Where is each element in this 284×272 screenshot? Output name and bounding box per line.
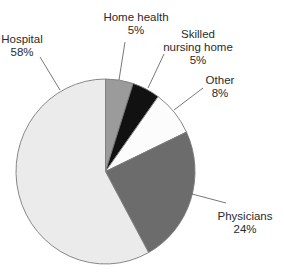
- pie-slices: [16, 79, 195, 264]
- label-hospital-name: Hospital: [1, 33, 43, 46]
- label-physicians-name: Physicians: [218, 210, 273, 223]
- label-home-health-name: Home health: [103, 11, 168, 24]
- label-physicians-value: 24%: [218, 223, 273, 236]
- label-home-health-value: 5%: [103, 24, 168, 37]
- label-skilled-nursing-value: 5%: [163, 54, 233, 67]
- label-hospital-value: 58%: [1, 46, 43, 59]
- label-physicians: Physicians 24%: [218, 210, 273, 236]
- leader-line-skilled-nursing: [148, 54, 164, 88]
- label-other-value: 8%: [206, 87, 235, 100]
- label-home-health: Home health 5%: [103, 11, 168, 37]
- label-skilled-nursing-line1: Skilled: [163, 28, 233, 41]
- leader-line-physicians: [192, 194, 226, 203]
- label-other: Other 8%: [206, 74, 235, 100]
- leader-line-hospital: [40, 57, 60, 90]
- leader-line-home-health: [119, 42, 125, 80]
- label-hospital: Hospital 58%: [1, 33, 43, 59]
- label-other-name: Other: [206, 74, 235, 87]
- leader-line-other: [174, 88, 203, 110]
- label-skilled-nursing-line2: nursing home: [163, 41, 233, 54]
- label-skilled-nursing: Skilled nursing home 5%: [163, 28, 233, 67]
